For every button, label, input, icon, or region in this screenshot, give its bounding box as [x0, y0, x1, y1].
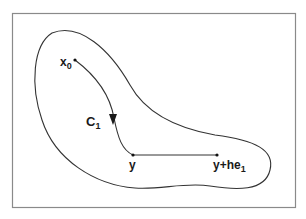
label-c1: C1: [86, 114, 100, 131]
point-y: [131, 153, 134, 156]
label-x0: x0: [60, 55, 72, 71]
curve-c1: [75, 60, 133, 155]
frame-border: [13, 14, 296, 208]
point-x0: [73, 58, 76, 61]
label-y-plus-he1: y+he1: [213, 158, 246, 174]
diagram-canvas: x0 C1 y y+he1: [0, 0, 306, 219]
point-y-plus-he1: [215, 153, 218, 156]
arrow-down-icon: [109, 114, 117, 125]
label-y: y: [129, 158, 136, 172]
